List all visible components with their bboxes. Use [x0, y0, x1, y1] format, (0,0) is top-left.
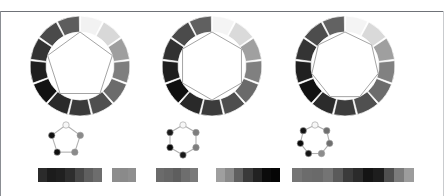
colorbar-cell	[253, 168, 262, 182]
colorbar-strip	[156, 168, 198, 182]
colorbar-cell	[216, 168, 225, 182]
ring-wheel-pentagon	[0, 0, 444, 130]
colorbar-cell	[84, 168, 93, 182]
graph-node	[54, 149, 60, 155]
colorbar-cell	[363, 168, 373, 182]
colorbar-strip	[38, 168, 102, 182]
colorbar-cell	[394, 168, 404, 182]
colorbar-strip	[112, 168, 136, 182]
colorbar-cell	[47, 168, 56, 182]
colorbar-cell	[373, 168, 383, 182]
colorbar-cell	[112, 168, 120, 182]
colorbar-cell	[353, 168, 363, 182]
colorbar-cell	[262, 168, 271, 182]
colorbar-cell	[234, 168, 243, 182]
colorbar-strip	[292, 168, 414, 182]
colorbar-cell	[164, 168, 172, 182]
colorbar-cell	[343, 168, 353, 182]
colorbar-cell	[190, 168, 198, 182]
colorbar-cell	[65, 168, 74, 182]
colorbar-cell	[404, 168, 414, 182]
colorbar-cell	[173, 168, 181, 182]
colorbar-cell	[56, 168, 65, 182]
colorbar-cell	[323, 168, 333, 182]
node-graph-pentagon	[0, 112, 444, 172]
colorbar-cell	[128, 168, 136, 182]
colorbar-cell	[271, 168, 280, 182]
graph-node	[77, 132, 83, 138]
graph-node	[72, 149, 78, 155]
graph-node	[49, 132, 55, 138]
colorbar-cell	[384, 168, 394, 182]
colorbar-cell	[156, 168, 164, 182]
colorbar-cell	[333, 168, 343, 182]
colorbar-cell	[312, 168, 322, 182]
colorbar-cell	[120, 168, 128, 182]
colorbar-cell	[302, 168, 312, 182]
inscribed-polygon	[48, 32, 113, 94]
colorbar-cell	[225, 168, 234, 182]
colorbar-cell	[38, 168, 47, 182]
colorbar-cell	[292, 168, 302, 182]
colorbar-cell	[75, 168, 84, 182]
colorbar-cell	[181, 168, 189, 182]
graph-node	[63, 122, 69, 128]
colorbar-cell	[93, 168, 102, 182]
colorbar-strip	[216, 168, 280, 182]
colorbar-cell	[243, 168, 252, 182]
figure-root	[0, 0, 444, 196]
